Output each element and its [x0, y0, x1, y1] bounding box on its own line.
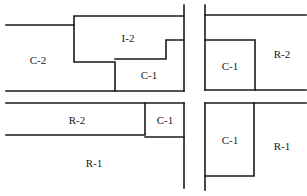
zone-label: C-2	[30, 54, 47, 66]
zone-label: R-2	[69, 114, 86, 126]
zone-label: R-1	[274, 140, 291, 152]
nw-i2-boundary	[74, 25, 115, 91]
zone-label: C-1	[157, 114, 174, 126]
zone-label: C-1	[222, 60, 239, 72]
zone-label: R-2	[274, 48, 291, 60]
zone-label: I-2	[122, 32, 135, 44]
zone-label: R-1	[86, 157, 103, 169]
zone-label: C-1	[222, 134, 239, 146]
zone-label: C-1	[141, 69, 158, 81]
nw-c2-boundary	[6, 16, 184, 25]
zoning-map	[0, 0, 307, 196]
